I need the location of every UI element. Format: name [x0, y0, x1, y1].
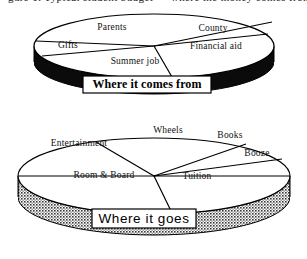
slice-label-financial-aid: Financial aid [190, 41, 242, 51]
slice-label-parents: Parents [97, 22, 126, 32]
pie-chart-where-it-comes-from: Parents County Financial aid Summer job … [34, 14, 274, 94]
slice-label-books: Books [217, 130, 242, 140]
slice-label-booze: Booze [244, 148, 269, 158]
caption-where-it-comes-from: Where it comes from [92, 77, 201, 91]
pie-chart-where-it-goes: Entertainment Wheels Books Booze Room & … [18, 125, 290, 235]
figure-canvas: Parents County Financial aid Summer job … [0, 0, 307, 259]
slice-label-entertainment: Entertainment [51, 138, 108, 148]
slice-label-room-and-board: Room & Board [74, 170, 135, 180]
slice-label-wheels: Wheels [153, 125, 183, 135]
slice-label-county: County [198, 23, 227, 33]
two-pie-chart-figure: Parents County Financial aid Summer job … [0, 0, 307, 259]
slice-label-gifts: Gifts [58, 40, 78, 50]
slice-label-tuition: Tuition [182, 171, 211, 181]
caption-where-it-goes: Where it goes [98, 211, 189, 226]
slice-label-summer-job: Summer job [111, 56, 160, 66]
